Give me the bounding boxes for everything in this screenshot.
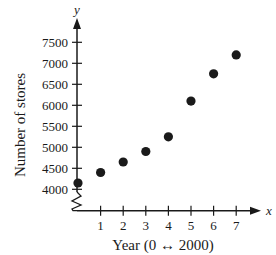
y-tick-label: 6000: [42, 98, 68, 113]
x-axis-title: Year (0 ↔ 2000): [112, 237, 213, 254]
x-axis-arrow-icon: [250, 207, 261, 215]
data-point: [96, 168, 105, 177]
x-tick-label: 6: [210, 218, 217, 233]
y-axis-title: Number of stores: [12, 73, 28, 177]
y-tick-label: 6500: [42, 77, 68, 92]
x-tick-label: 5: [188, 218, 195, 233]
data-point: [186, 97, 195, 106]
axis-break-icon: [72, 192, 81, 211]
y-tick-label: 4000: [42, 182, 68, 197]
y-tick-label: 5000: [42, 140, 68, 155]
y-axis-variable: y: [72, 2, 80, 17]
y-axis-arrow-icon: [73, 18, 81, 29]
scatter-chart: 40004500500055006000650070007500 y 12345…: [0, 0, 276, 255]
y-tick-label: 5500: [42, 119, 68, 134]
y-tick-label: 4500: [42, 161, 68, 176]
x-tick-label: 7: [233, 218, 240, 233]
y-tick-label: 7500: [42, 35, 68, 50]
data-point: [119, 157, 128, 166]
x-tick-label: 3: [143, 218, 150, 233]
data-point: [73, 178, 82, 187]
data-point: [209, 69, 218, 78]
x-tick-label: 1: [97, 218, 104, 233]
x-axis: 1234567 x: [77, 203, 272, 233]
data-points: [73, 50, 240, 187]
data-point: [164, 132, 173, 141]
y-tick-label: 7000: [42, 56, 68, 71]
x-tick-label: 2: [120, 218, 127, 233]
data-point: [141, 147, 150, 156]
x-axis-variable: x: [265, 203, 272, 218]
data-point: [232, 50, 241, 59]
x-tick-label: 4: [165, 218, 172, 233]
